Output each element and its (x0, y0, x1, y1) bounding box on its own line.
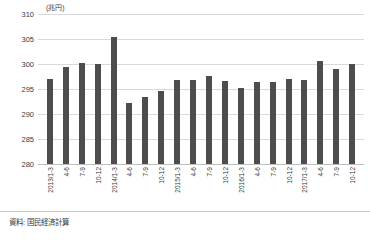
plot-area: 280285290295300305310 (38, 14, 364, 164)
bar-slot (217, 14, 233, 164)
x-label-slot: 4-6 (185, 166, 201, 208)
source-note: 資料: 国民経済計算 (9, 216, 69, 227)
bar[interactable] (190, 80, 196, 165)
bar-slot (265, 14, 281, 164)
bar-slot (58, 14, 74, 164)
bar-slot (106, 14, 122, 164)
bar-slot (201, 14, 217, 164)
bar-slot (185, 14, 201, 164)
chart-page: (兆円) 280285290295300305310 2013/1-34-67-… (0, 0, 370, 244)
x-label-slot: 10-12 (217, 166, 233, 208)
bar-slot (328, 14, 344, 164)
x-axis-label: 7-9 (269, 167, 276, 176)
x-axis-label: 4-6 (253, 167, 260, 176)
bar[interactable] (349, 64, 355, 165)
x-label-slot: 10-12 (90, 166, 106, 208)
x-axis-label: 2015/1-3 (174, 167, 181, 193)
x-label-slot: 4-6 (249, 166, 265, 208)
bar-slot (233, 14, 249, 164)
y-axis-tick-310: 310 (21, 10, 34, 19)
x-axis-label: 10-12 (221, 167, 228, 184)
x-label-slot: 7-9 (328, 166, 344, 208)
x-label-slot: 7-9 (201, 166, 217, 208)
x-label-slot: 10-12 (281, 166, 297, 208)
bar-slot (297, 14, 313, 164)
x-label-slot: 2013/1-3 (42, 166, 58, 208)
bar-slot (42, 14, 58, 164)
x-axis-labels: 2013/1-34-67-910-122014/1-34-67-910-1220… (38, 166, 364, 208)
x-label-slot: 2017/1-3 (297, 166, 313, 208)
y-axis-unit-label: (兆円) (46, 2, 65, 12)
bar[interactable] (254, 82, 260, 164)
bar[interactable] (333, 69, 339, 165)
x-axis-label: 4-6 (317, 167, 324, 176)
bar[interactable] (111, 37, 117, 165)
bar-slot (122, 14, 138, 164)
x-axis-label: 7-9 (142, 167, 149, 176)
bar[interactable] (286, 79, 292, 165)
bar[interactable] (126, 103, 132, 164)
x-label-slot: 4-6 (58, 166, 74, 208)
x-label-slot: 2016/1-3 (233, 166, 249, 208)
x-axis-label: 2017/1-3 (301, 167, 308, 193)
bar[interactable] (95, 64, 101, 164)
bar-slot (90, 14, 106, 164)
y-axis-tick-305: 305 (21, 35, 34, 44)
x-label-slot: 10-12 (153, 166, 169, 208)
bar-slot (137, 14, 153, 164)
bar-slot (153, 14, 169, 164)
y-axis-tick-295: 295 (21, 85, 34, 94)
y-axis-tick-290: 290 (21, 110, 34, 119)
bar[interactable] (63, 67, 69, 165)
gridline-280 (38, 164, 364, 165)
bar[interactable] (222, 81, 228, 164)
bar-slot (169, 14, 185, 164)
x-axis-label: 10-12 (158, 167, 165, 184)
x-axis-label: 4-6 (190, 167, 197, 176)
bar[interactable] (47, 79, 53, 164)
bar-slot (249, 14, 265, 164)
x-axis-label: 10-12 (94, 167, 101, 184)
x-label-slot: 2015/1-3 (169, 166, 185, 208)
x-label-slot: 7-9 (137, 166, 153, 208)
x-axis-label: 2014/1-3 (110, 167, 117, 193)
x-axis-label: 7-9 (78, 167, 85, 176)
x-label-slot: 4-6 (122, 166, 138, 208)
y-axis-tick-280: 280 (21, 160, 34, 169)
x-label-slot: 2014/1-3 (106, 166, 122, 208)
bar-slot (312, 14, 328, 164)
bar[interactable] (301, 80, 307, 165)
x-label-slot: 7-9 (74, 166, 90, 208)
bar[interactable] (79, 63, 85, 165)
bar[interactable] (206, 76, 212, 164)
bar-slot (344, 14, 360, 164)
x-axis-label: 7-9 (206, 167, 213, 176)
x-label-slot: 7-9 (265, 166, 281, 208)
bar-series (38, 14, 364, 164)
bar[interactable] (158, 91, 164, 165)
x-label-slot: 4-6 (312, 166, 328, 208)
footer-divider (0, 211, 370, 212)
x-axis-label: 10-12 (349, 167, 356, 184)
x-axis-label: 10-12 (285, 167, 292, 184)
x-axis-label: 7-9 (333, 167, 340, 176)
bar-slot (74, 14, 90, 164)
bar[interactable] (142, 97, 148, 164)
bar[interactable] (238, 88, 244, 164)
bar[interactable] (317, 61, 323, 165)
x-axis-label: 4-6 (62, 167, 69, 176)
y-axis-tick-300: 300 (21, 60, 34, 69)
bar[interactable] (270, 82, 276, 164)
x-axis-label: 4-6 (126, 167, 133, 176)
y-axis-tick-285: 285 (21, 135, 34, 144)
x-axis-label: 2013/1-3 (46, 167, 53, 193)
bar-slot (281, 14, 297, 164)
x-axis-label: 2016/1-3 (237, 167, 244, 193)
x-label-slot: 10-12 (344, 166, 360, 208)
bar[interactable] (174, 80, 180, 164)
